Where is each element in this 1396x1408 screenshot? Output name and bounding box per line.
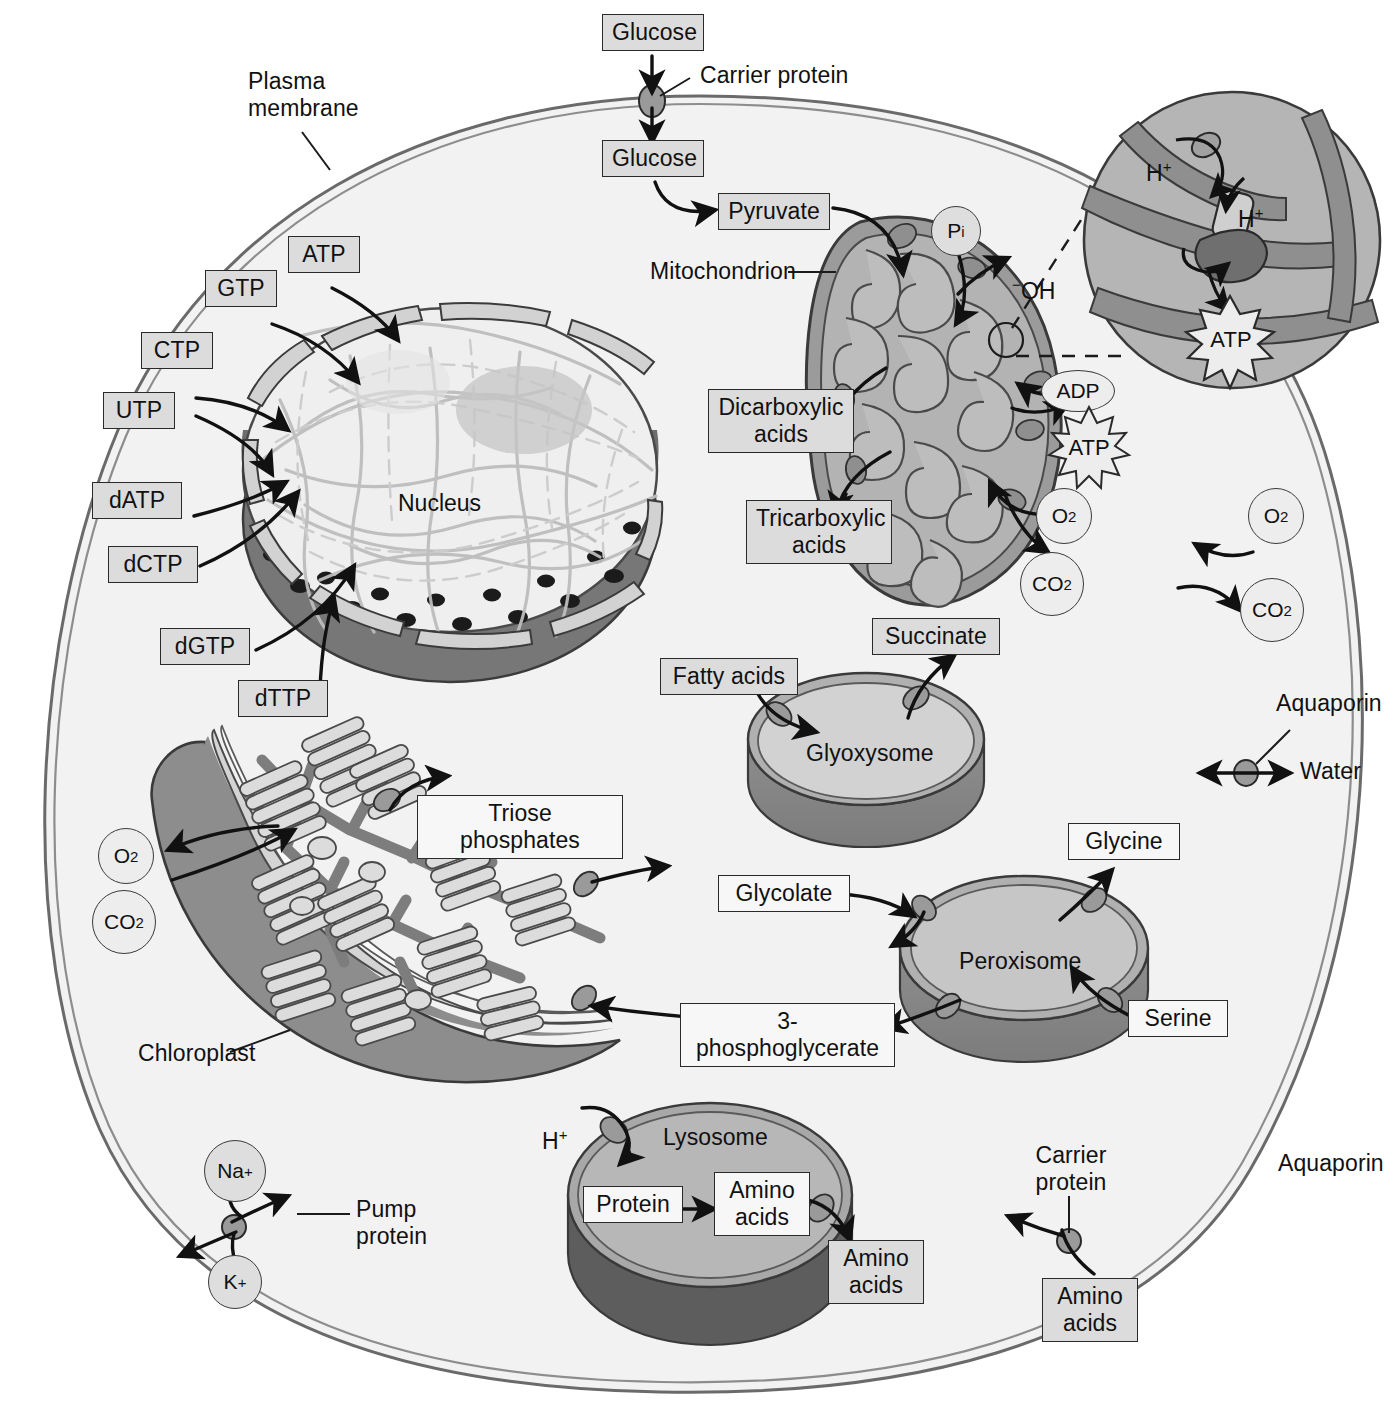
o2-mito-text: O bbox=[1052, 504, 1068, 528]
na-charge: + bbox=[244, 1163, 253, 1180]
label-ctp[interactable]: CTP bbox=[141, 332, 213, 369]
molecule-pi: Pi bbox=[931, 206, 981, 256]
pi-text: P bbox=[947, 219, 961, 243]
diagram-vector-layer bbox=[0, 0, 1396, 1408]
proton-lysosome-charge: + bbox=[559, 1126, 568, 1143]
glyoxysome-label: Glyoxysome bbox=[806, 740, 934, 767]
o2-extra-text: O bbox=[1264, 504, 1280, 528]
pi-subscript: i bbox=[961, 223, 964, 240]
carrier-protein-top-label: Carrier protein bbox=[700, 62, 849, 89]
co2-chloro-subscript: 2 bbox=[136, 914, 144, 931]
label-glycolate[interactable]: Glycolate bbox=[718, 875, 850, 912]
co2-mito-text: CO bbox=[1032, 572, 1064, 596]
molecule-potassium-ion: K+ bbox=[208, 1255, 262, 1309]
label-protein[interactable]: Protein bbox=[583, 1186, 683, 1223]
o2-chloro-text: O bbox=[114, 844, 130, 868]
label-amino-acids-cytosol[interactable]: Amino acids bbox=[828, 1240, 924, 1304]
molecule-co2-chloroplast: CO2 bbox=[92, 890, 156, 954]
inset-proton-upper-charge: + bbox=[1163, 158, 1172, 175]
k-text: K bbox=[224, 1270, 238, 1294]
co2-extra-text: CO bbox=[1252, 598, 1284, 622]
label-fatty-acids[interactable]: Fatty acids bbox=[660, 658, 798, 695]
adp-text: ADP bbox=[1056, 379, 1099, 403]
label-gtp[interactable]: GTP bbox=[205, 270, 277, 307]
label-datp[interactable]: dATP bbox=[92, 482, 182, 519]
label-tricarboxylic-acids[interactable]: Tricarboxylic acids bbox=[746, 500, 892, 564]
label-amino-acids-extracellular[interactable]: Amino acids bbox=[1042, 1278, 1138, 1342]
label-pyruvate[interactable]: Pyruvate bbox=[718, 193, 830, 230]
label-dttp[interactable]: dTTP bbox=[238, 680, 328, 717]
molecule-o2-chloroplast: O2 bbox=[98, 828, 154, 884]
label-amino-acids-lysosome[interactable]: Amino acids bbox=[714, 1172, 810, 1236]
label-succinate[interactable]: Succinate bbox=[872, 618, 1000, 655]
proton-lysosome-text: H bbox=[542, 1128, 559, 1154]
chloroplast-label: Chloroplast bbox=[138, 1040, 255, 1067]
na-text: Na bbox=[217, 1159, 244, 1183]
label-3-phosphoglycerate[interactable]: 3-phosphoglycerate bbox=[680, 1003, 895, 1067]
k-charge: + bbox=[238, 1274, 247, 1291]
hydroxide-charge: − bbox=[1012, 276, 1021, 293]
carrier-protein-bottom-label: Carrier protein bbox=[1016, 1142, 1126, 1196]
water-label: Water bbox=[1300, 758, 1361, 785]
label-utp[interactable]: UTP bbox=[103, 392, 175, 429]
molecule-co2-mitochondrial: CO2 bbox=[1020, 552, 1084, 616]
aquaporin-text: Aquaporin bbox=[1276, 690, 1382, 717]
inset-proton-lower-label: H+ bbox=[1238, 172, 1264, 233]
label-atp-nuclear[interactable]: ATP bbox=[288, 236, 360, 273]
molecule-sodium-ion: Na+ bbox=[204, 1140, 266, 1202]
hydroxide-label: −OH bbox=[1012, 244, 1056, 305]
inset-atp-label: ATP bbox=[1196, 326, 1266, 353]
inset-proton-lower-charge: + bbox=[1255, 204, 1264, 221]
label-triose-phosphates[interactable]: Triose phosphates bbox=[417, 795, 623, 859]
mitochondrion-label: Mitochondrion bbox=[650, 258, 796, 285]
inset-proton-upper-text: H bbox=[1146, 160, 1163, 186]
co2-extra-subscript: 2 bbox=[1284, 602, 1292, 619]
o2-mito-subscript: 2 bbox=[1068, 508, 1076, 525]
label-dicarboxylic-acids[interactable]: Dicarboxylic acids bbox=[708, 389, 854, 453]
label-serine[interactable]: Serine bbox=[1128, 1000, 1228, 1037]
inset-proton-upper-label: H+ bbox=[1146, 126, 1172, 187]
aquaporin-label: Aquaporin bbox=[1278, 1150, 1388, 1177]
nucleus-label: Nucleus bbox=[398, 490, 481, 517]
molecule-o2-mitochondrial: O2 bbox=[1036, 488, 1092, 544]
inset-proton-lower-text: H bbox=[1238, 206, 1255, 232]
atp-mito-text: ATP bbox=[1068, 435, 1109, 461]
o2-extra-subscript: 2 bbox=[1280, 508, 1288, 525]
co2-chloro-text: CO bbox=[104, 910, 136, 934]
label-dctp[interactable]: dCTP bbox=[108, 546, 198, 583]
proton-lysosome-label: H+ bbox=[542, 1094, 568, 1155]
label-dgtp[interactable]: dGTP bbox=[160, 628, 250, 665]
pump-protein-label: Pump protein bbox=[356, 1196, 427, 1250]
co2-mito-subscript: 2 bbox=[1064, 576, 1072, 593]
label-glucose-extracellular[interactable]: Glucose bbox=[602, 14, 704, 51]
label-glucose-cytosolic[interactable]: Glucose bbox=[602, 140, 704, 177]
hydroxide-text: OH bbox=[1021, 278, 1056, 304]
label-glycine[interactable]: Glycine bbox=[1068, 823, 1180, 860]
molecule-o2-extracellular: O2 bbox=[1248, 488, 1304, 544]
molecule-atp-mitochondrial: ATP bbox=[1046, 405, 1132, 491]
molecule-co2-extracellular: CO2 bbox=[1240, 578, 1304, 642]
lysosome-label: Lysosome bbox=[663, 1124, 768, 1151]
o2-chloro-subscript: 2 bbox=[130, 848, 138, 865]
plasma-membrane-label: Plasma membrane bbox=[248, 68, 359, 122]
cell-diagram-canvas: Plasma membrane Carrier protein Glucose … bbox=[0, 0, 1396, 1408]
peroxisome-label: Peroxisome bbox=[959, 948, 1081, 975]
